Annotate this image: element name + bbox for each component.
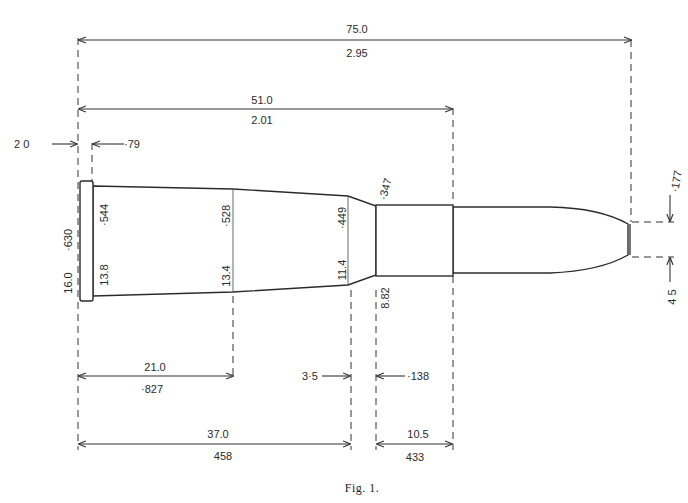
overall-length-in: 2.95 bbox=[346, 47, 367, 59]
shoulder-diameter-mm: 11.4 bbox=[336, 260, 348, 281]
base-to-shoulder-in: 458 bbox=[214, 450, 232, 462]
case-length-in: 2.01 bbox=[251, 114, 272, 126]
neck-length-mm: 10.5 bbox=[407, 428, 428, 440]
overall-length-mm: 75.0 bbox=[346, 23, 367, 35]
rim-diameter-mm: 16.0 bbox=[62, 272, 74, 293]
body-mid-diameter-mm: 13.4 bbox=[220, 265, 232, 286]
base-to-mid-in: ·827 bbox=[141, 383, 163, 395]
neck-diameter-in: ·347 bbox=[376, 177, 393, 201]
figure-caption: Fig. 1. bbox=[345, 481, 380, 495]
rim-thickness-in: ·79 bbox=[124, 138, 140, 150]
shoulder-length-mm: 3·5 bbox=[302, 370, 318, 382]
bullet-tip-mm: 4 5 bbox=[666, 289, 678, 304]
cartridge-diagram: 75.0 2.95 51.0 2.01 2 0 ·79 ·630 16.0 ·5… bbox=[0, 0, 688, 503]
base-diameter-mm: 13.8 bbox=[98, 264, 110, 285]
case-body bbox=[93, 186, 376, 296]
case-rim bbox=[80, 181, 93, 301]
shoulder-diameter-in: ·449 bbox=[336, 207, 348, 229]
neck-length-in: 433 bbox=[406, 451, 424, 463]
base-to-mid-mm: 21.0 bbox=[144, 361, 165, 373]
rim-diameter-in: ·630 bbox=[62, 229, 74, 251]
shoulder-length-in: ·138 bbox=[407, 370, 429, 382]
bullet bbox=[453, 207, 628, 273]
case-length-mm: 51.0 bbox=[251, 94, 272, 106]
neck-diameter-mm: 8.82 bbox=[379, 287, 391, 308]
base-diameter-in: ·544 bbox=[98, 204, 110, 226]
rim-thickness-mm: 2 0 bbox=[14, 138, 29, 150]
base-to-shoulder-mm: 37.0 bbox=[207, 428, 228, 440]
bullet-tip-in: ·177 bbox=[668, 169, 684, 193]
body-mid-diameter-in: ·528 bbox=[220, 205, 232, 227]
case-neck bbox=[376, 205, 453, 276]
cartridge-outline bbox=[80, 181, 630, 301]
